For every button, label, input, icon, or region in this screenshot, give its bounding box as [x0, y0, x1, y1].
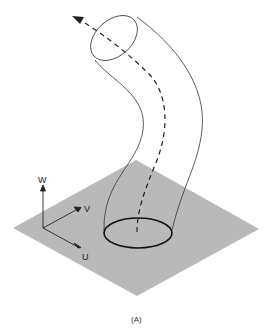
tube-diagram: W V U (A) [0, 0, 274, 328]
ground-plane [13, 160, 259, 296]
axis-label-w: W [38, 175, 47, 185]
axis-label-u: U [82, 252, 89, 262]
top-ellipse [82, 7, 146, 70]
figure-caption: (A) [131, 315, 142, 324]
arrowhead-icon [72, 16, 84, 24]
w-arrowhead-icon [41, 185, 46, 191]
axis-label-v: V [84, 204, 90, 214]
